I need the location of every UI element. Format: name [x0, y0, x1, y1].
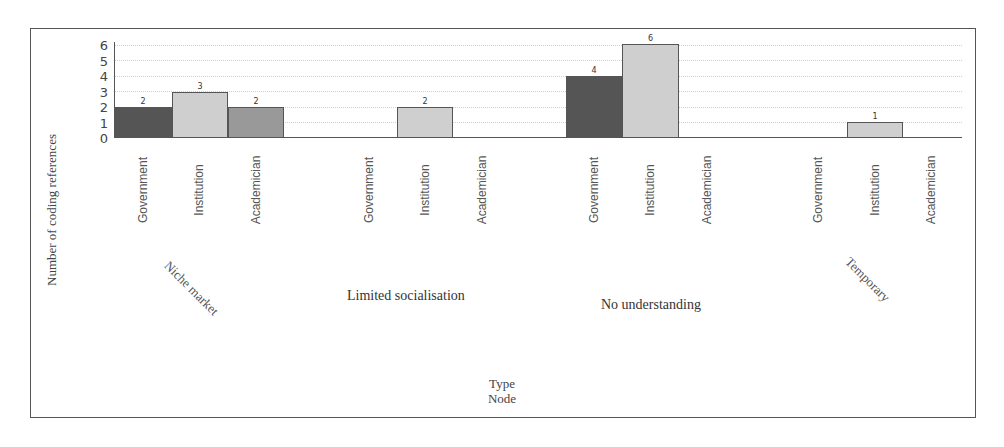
x-tick-label: Academician	[475, 145, 489, 235]
x-tick-text: Academician	[700, 156, 714, 225]
x-tick-label: Institution	[643, 145, 657, 235]
data-label: 2	[229, 97, 283, 106]
x-tick-text: Institution	[868, 164, 882, 215]
x-tick-text: Institution	[643, 164, 657, 215]
x-tick-text: Government	[362, 157, 376, 223]
bar-niche-institution: 3	[172, 92, 228, 138]
x-tick-text: Academician	[249, 156, 263, 225]
bar-nounderstanding-government: 4	[566, 76, 622, 138]
x-tick-label: Academician	[249, 145, 263, 235]
x-tick-label: Academician	[700, 145, 714, 235]
x-tick-text: Government	[587, 157, 601, 223]
x-tick-label: Government	[587, 145, 601, 235]
gridline	[114, 45, 962, 46]
y-tick-0: 0	[88, 132, 108, 145]
gridline	[114, 76, 962, 77]
x-tick-label: Academician	[924, 145, 938, 235]
bar-nounderstanding-institution: 6	[622, 44, 679, 138]
bar-limited-institution: 2	[397, 107, 453, 138]
x-tick-text: Academician	[924, 156, 938, 225]
bar-niche-academician: 2	[228, 107, 284, 138]
x-axis-line	[114, 137, 962, 138]
x-tick-text: Government	[811, 157, 825, 223]
y-tick-1: 1	[88, 117, 108, 130]
y-axis-title-text: Number of coding references	[44, 134, 60, 286]
x-tick-text: Government	[136, 157, 150, 223]
data-label: 2	[115, 97, 171, 106]
y-tick-3: 3	[88, 86, 108, 99]
y-tick-4: 4	[88, 70, 108, 83]
x-tick-label: Institution	[418, 145, 432, 235]
x-tick-text: Institution	[418, 164, 432, 215]
plot-area: 2 3 2 2 4 6 1	[114, 36, 962, 138]
x-tick-label: Government	[811, 145, 825, 235]
bar-niche-government: 2	[114, 107, 172, 138]
y-tick-2: 2	[88, 101, 108, 114]
bar-temporary-institution: 1	[847, 122, 903, 138]
x-tick-label: Institution	[192, 145, 206, 235]
x-tick-text: Academician	[475, 156, 489, 225]
group-label-no-understanding: No understanding	[601, 297, 701, 313]
group-label-limited-socialisation: Limited socialisation	[347, 288, 465, 304]
x-tick-label: Government	[362, 145, 376, 235]
data-label: 3	[173, 82, 227, 91]
y-tick-6: 6	[88, 39, 108, 52]
x-tick-text: Institution	[192, 164, 206, 215]
data-label: 1	[848, 112, 902, 121]
gridline	[114, 91, 962, 92]
x-axis-title-line2: Node	[0, 392, 1004, 406]
x-tick-label: Institution	[868, 145, 882, 235]
y-axis-title: Number of coding references	[45, 90, 59, 330]
x-tick-label: Government	[136, 145, 150, 235]
gridline	[114, 60, 962, 61]
data-label: 4	[567, 66, 621, 75]
data-label: 6	[623, 34, 678, 43]
y-tick-5: 5	[88, 55, 108, 68]
x-axis-title-line1: Type	[0, 377, 1004, 391]
data-label: 2	[398, 97, 452, 106]
